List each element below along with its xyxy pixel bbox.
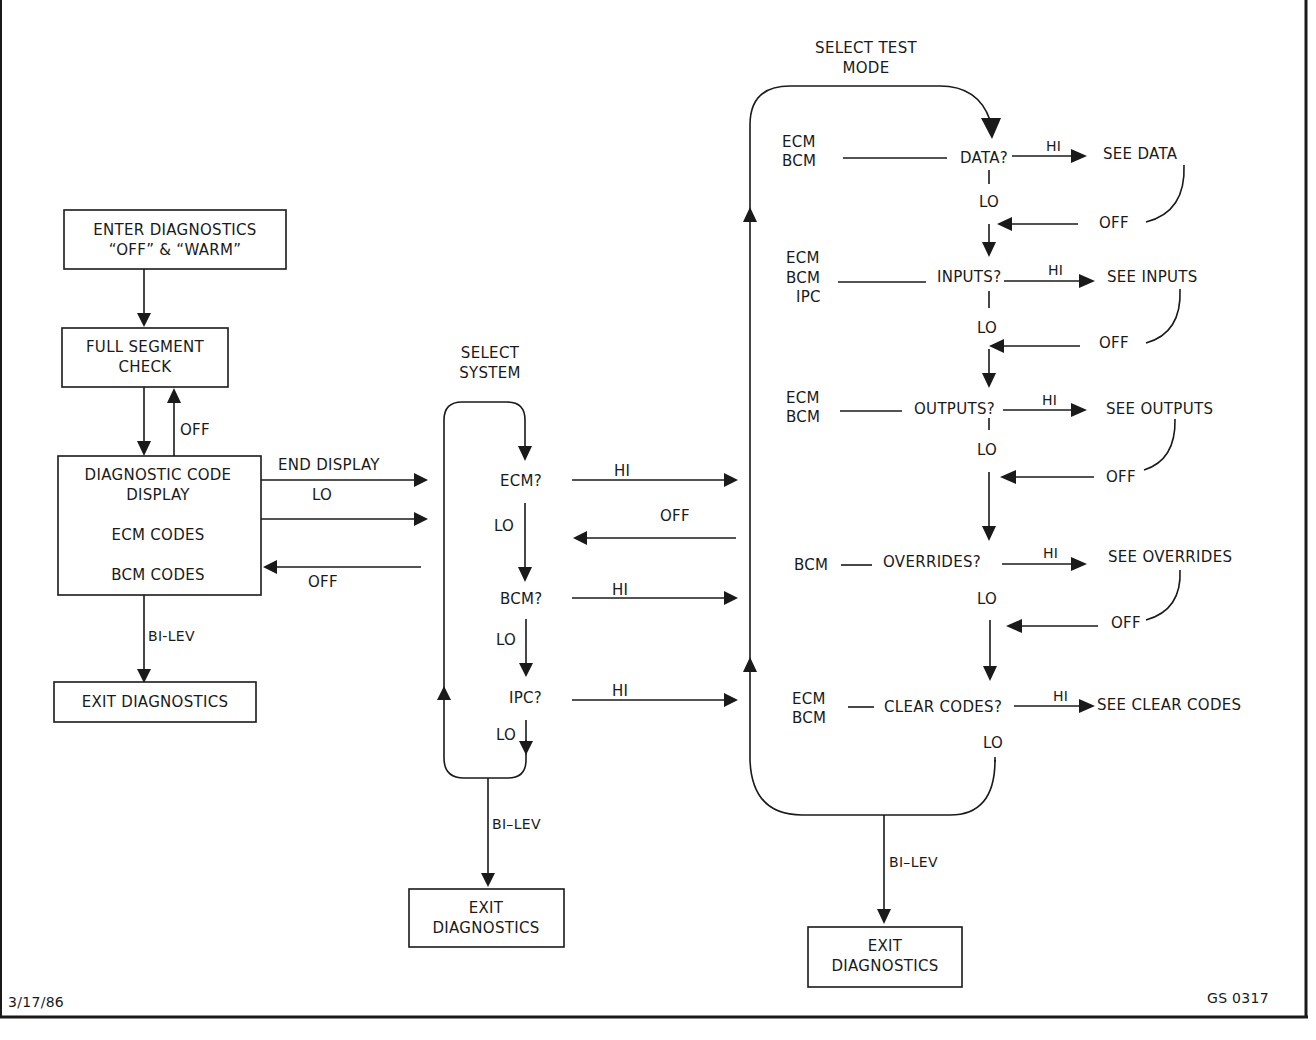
lo-label: LO xyxy=(496,726,516,744)
exit-diagnostics-box-right: EXIT DIAGNOSTICS xyxy=(808,927,962,987)
see-clear-codes-label: SEE CLEAR CODES xyxy=(1097,696,1241,714)
arrow-down-icon xyxy=(982,526,996,541)
hi-label: HI xyxy=(1053,688,1068,704)
hi-label: HI xyxy=(1043,545,1058,561)
exit-line1: EXIT xyxy=(469,899,504,917)
enter-diagnostics-box: ENTER DIAGNOSTICS “OFF” & “WARM” xyxy=(64,210,286,269)
arrow-right-icon xyxy=(1071,149,1087,163)
arrow-left-icon xyxy=(989,339,1004,353)
system-label: ECM xyxy=(786,249,820,267)
system-label: BCM xyxy=(782,152,816,170)
arrow-down-icon xyxy=(519,741,533,755)
select-test-mode-title-line1: SELECT TEST xyxy=(815,39,917,57)
system-label: BCM xyxy=(786,269,820,287)
see-data-label: SEE DATA xyxy=(1103,145,1178,163)
bilev-label: BI–LEV xyxy=(889,854,938,870)
off-curve xyxy=(1144,419,1175,470)
data-question-label: DATA? xyxy=(960,149,1008,167)
arrow-down-icon xyxy=(981,118,1001,139)
see-inputs-label: SEE INPUTS xyxy=(1107,268,1198,286)
arrow-left-icon xyxy=(263,560,277,574)
system-label: ECM xyxy=(792,690,826,708)
arrow-left-icon xyxy=(997,217,1012,231)
lo-label: LO xyxy=(977,441,997,459)
off-label: OFF xyxy=(1106,468,1136,486)
arrow-right-icon xyxy=(724,473,738,487)
lo-label: LO xyxy=(979,193,999,211)
end-display-label: END DISPLAY xyxy=(278,456,380,474)
clear-codes-question-label: CLEAR CODES? xyxy=(884,698,1002,716)
code-display-line1: DIAGNOSTIC CODE xyxy=(85,466,232,484)
arrow-down-icon xyxy=(519,663,533,677)
off-label: OFF xyxy=(1099,334,1129,352)
outputs-question-label: OUTPUTS? xyxy=(914,400,995,418)
arrow-right-icon xyxy=(1071,403,1087,417)
lo-label: LO xyxy=(977,590,997,608)
code-display-line2: DISPLAY xyxy=(126,486,190,504)
segment-line1: FULL SEGMENT xyxy=(86,338,205,356)
off-label: OFF xyxy=(660,507,690,525)
lo-label: LO xyxy=(977,319,997,337)
exit-line2: DIAGNOSTICS xyxy=(432,919,539,937)
select-item-ipc: IPC? HI LO xyxy=(496,682,738,755)
select-system-title-line1: SELECT xyxy=(461,344,520,362)
arrow-down-icon xyxy=(518,567,532,582)
arrow-down-icon xyxy=(982,373,996,388)
bilev-label: BI-LEV xyxy=(148,628,195,644)
mode-overrides: BCM OVERRIDES? HI SEE OVERRIDES LO OFF xyxy=(794,545,1232,681)
exit-diagnostics-label: EXIT DIAGNOSTICS xyxy=(82,693,229,711)
diagnostic-flowchart: ENTER DIAGNOSTICS “OFF” & “WARM” FULL SE… xyxy=(0,0,1316,1040)
off-curve xyxy=(1146,570,1180,620)
off-label: OFF xyxy=(1111,614,1141,632)
off-curve xyxy=(1146,289,1180,343)
arrow-down-icon xyxy=(137,313,151,327)
arrow-right-icon xyxy=(724,591,738,605)
arrow-left-icon xyxy=(1006,619,1022,633)
ecm-codes-label: ECM CODES xyxy=(111,526,204,544)
enter-diagnostics-line1: ENTER DIAGNOSTICS xyxy=(93,221,256,239)
arrow-left-icon xyxy=(573,531,587,545)
arrow-right-icon xyxy=(1079,274,1095,288)
mode-inputs: ECM BCM IPC INPUTS? HI SEE INPUTS LO OFF xyxy=(786,249,1198,388)
exit-line2: DIAGNOSTICS xyxy=(831,957,938,975)
arrow-down-icon xyxy=(137,669,151,683)
hi-label: HI xyxy=(1042,392,1057,408)
figure-date: 3/17/86 xyxy=(8,994,64,1010)
arrow-down-icon xyxy=(518,446,532,461)
see-overrides-label: SEE OVERRIDES xyxy=(1108,548,1232,566)
hi-label: HI xyxy=(1048,262,1063,278)
system-label: ECM xyxy=(782,133,816,151)
mode-outputs: ECM BCM OUTPUTS? HI SEE OUTPUTS LO OFF xyxy=(786,389,1213,541)
hi-label: HI xyxy=(612,581,628,599)
arrow-down-icon xyxy=(983,666,997,681)
overrides-question-label: OVERRIDES? xyxy=(883,553,981,571)
arrow-left-icon xyxy=(1000,470,1016,484)
mode-clear-codes: ECM BCM CLEAR CODES? HI SEE CLEAR CODES … xyxy=(792,688,1241,762)
test-mode-loop-bottom xyxy=(750,760,995,815)
bilev-label: BI–LEV xyxy=(492,816,541,832)
lo-label: LO xyxy=(312,486,332,504)
enter-diagnostics-line2: “OFF” & “WARM” xyxy=(109,241,242,259)
system-label: IPC xyxy=(796,288,821,306)
select-item-ecm: ECM? HI LO xyxy=(494,462,738,582)
arrow-right-icon xyxy=(1071,557,1087,571)
off-curve xyxy=(1146,165,1184,222)
full-segment-check-box: FULL SEGMENT CHECK xyxy=(62,328,228,387)
arrow-up-icon xyxy=(437,686,451,700)
off-label: OFF xyxy=(180,421,210,439)
select-test-mode-title-line2: MODE xyxy=(843,59,890,77)
arrow-right-icon xyxy=(1079,699,1095,713)
arrow-down-icon xyxy=(481,873,495,887)
system-label: ECM xyxy=(786,389,820,407)
system-label: BCM xyxy=(792,709,826,727)
hi-label: HI xyxy=(1046,138,1061,154)
exit-diagnostics-box-center: EXIT DIAGNOSTICS xyxy=(409,889,564,947)
arrow-right-icon xyxy=(724,693,738,707)
exit-line1: EXIT xyxy=(868,937,903,955)
mode-data: ECM BCM DATA? HI SEE DATA LO OFF xyxy=(782,133,1184,257)
figure-id: GS 0317 xyxy=(1207,990,1269,1006)
arrow-right-icon xyxy=(414,473,428,487)
lo-label: LO xyxy=(494,517,514,535)
ipc-question-label: IPC? xyxy=(509,689,542,707)
exit-diagnostics-box-left: EXIT DIAGNOSTICS xyxy=(54,682,256,722)
